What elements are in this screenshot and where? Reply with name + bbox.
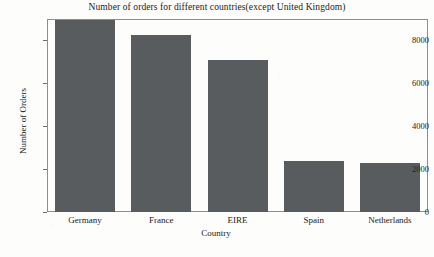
y-tick-mark-6000 bbox=[43, 83, 47, 84]
y-axis-label: Number of Orders bbox=[18, 51, 28, 191]
y-tick-mark-8000 bbox=[43, 40, 47, 41]
y-tick-label-6000: 6000 bbox=[412, 78, 429, 88]
y-tick-label-4000: 4000 bbox=[412, 121, 429, 131]
bar-netherlands bbox=[360, 163, 420, 212]
bar-spain bbox=[284, 161, 344, 212]
chart-title: Number of orders for different countries… bbox=[0, 2, 434, 12]
bars-container bbox=[47, 19, 428, 212]
y-tick-mark-2000 bbox=[43, 169, 47, 170]
x-axis-label: Country bbox=[0, 228, 434, 238]
y-tick-mark-0 bbox=[43, 212, 47, 213]
y-tick-label-2000: 2000 bbox=[412, 164, 429, 174]
plot-area bbox=[47, 19, 428, 212]
y-tick-mark-4000 bbox=[43, 126, 47, 127]
y-tick-label-8000: 8000 bbox=[412, 35, 429, 45]
bar-germany bbox=[55, 20, 115, 212]
bar-chart-figure: Number of orders for different countries… bbox=[0, 0, 434, 257]
x-axis-label-text: Country bbox=[201, 228, 231, 238]
bar-france bbox=[131, 35, 191, 212]
bar-eire bbox=[208, 60, 268, 212]
x-tick-label-netherlands: Netherlands bbox=[340, 215, 434, 225]
